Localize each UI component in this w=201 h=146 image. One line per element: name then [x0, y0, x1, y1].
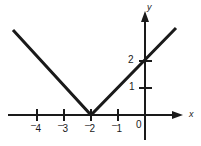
x-tick-label-minus-1-value: 1: [117, 123, 123, 134]
y-tick-label-1: 1: [129, 82, 135, 92]
x-axis-arrowhead: [172, 111, 183, 119]
y-tick-label-2: 2: [128, 55, 134, 65]
x-tick-label-minus-2: –2: [85, 121, 95, 134]
y-axis-arrowhead: [141, 11, 149, 22]
x-tick-label-minus-4: –4: [31, 121, 41, 134]
x-axis-label: x: [189, 110, 194, 119]
origin-tick-label: 0: [136, 120, 142, 130]
x-tick-label-minus-3-value: 3: [63, 123, 69, 134]
x-tick-label-minus-2-value: 2: [90, 123, 96, 134]
x-tick-label-minus-4-value: 4: [36, 123, 42, 134]
y-axis-label: y: [147, 3, 152, 12]
x-tick-label-minus-3: –3: [58, 121, 68, 134]
graph-figure: x y 0 –4 –3 –2 –1 2 1: [0, 0, 201, 146]
absolute-value-curve: [13, 28, 176, 115]
x-tick-label-minus-1: –1: [112, 121, 122, 134]
